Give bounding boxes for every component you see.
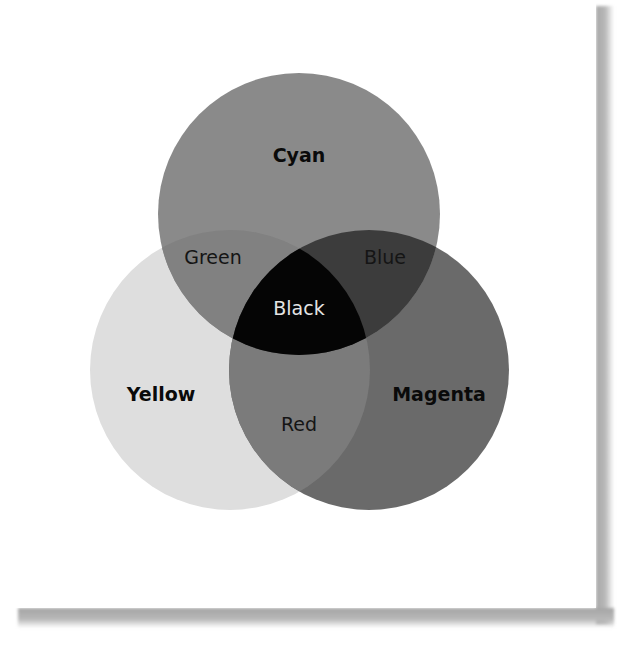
label-magenta: Magenta [392,385,486,404]
label-red: Red [281,415,317,434]
label-yellow: Yellow [127,385,196,404]
diagram-page: Cyan Green Blue Black Yellow Magenta Red [0,0,596,608]
label-blue: Blue [364,248,406,267]
label-green: Green [184,248,242,267]
label-cyan: Cyan [273,146,326,165]
label-black: Black [273,299,324,318]
page-shadow-right [596,6,614,624]
page-shadow-bottom [18,608,614,628]
